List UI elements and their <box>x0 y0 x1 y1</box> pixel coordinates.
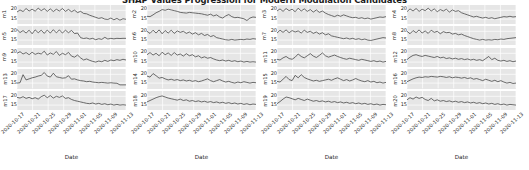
subplot-m1: m12015 <box>0 4 130 25</box>
y-tick-labels-m11: 2015 <box>268 47 277 68</box>
y-axis-label-text: m17 <box>2 95 8 107</box>
y-tick-labels-m17: 2015 <box>8 90 17 111</box>
y-axis-label-text: m1 <box>1 10 7 18</box>
y-tick-labels-m14: 2015 <box>138 69 147 90</box>
y-axis-label-text: m7 <box>261 32 267 40</box>
panel-column-4: m42015m82015m122015m162015m2020152020-10… <box>390 4 529 164</box>
series-line-m17 <box>17 95 126 105</box>
subplot-m19: m192015 <box>260 90 390 111</box>
y-tick-labels-m8: 2015 <box>398 26 407 47</box>
plot-area-m17 <box>17 91 126 110</box>
y-tick-labels-m5: 2015 <box>8 26 17 47</box>
subplot-m18: m182015 <box>130 90 260 111</box>
x-axis-ticks-col4: 2020-10-172020-10-212020-10-252020-10-29… <box>407 113 516 155</box>
series-line-m12 <box>407 54 516 61</box>
plot-area-m18 <box>147 91 256 110</box>
plot-area-m3 <box>277 5 386 24</box>
y-axis-label-text: m14 <box>132 73 138 85</box>
y-axis-label-text: m10 <box>132 52 138 64</box>
y-tick-labels-m20: 2015 <box>398 90 407 111</box>
y-tick-labels-m10: 2015 <box>138 47 147 68</box>
plot-area-m4 <box>407 5 516 24</box>
y-axis-label-text: m12 <box>392 52 398 64</box>
plot-area-m1 <box>17 5 126 24</box>
plot-area-m10 <box>147 48 256 67</box>
subplot-m20: m202015 <box>390 90 529 111</box>
x-axis-title-col4: Date <box>407 154 516 160</box>
series-line-m16 <box>407 77 516 84</box>
y-tick-labels-m13: 2015 <box>8 69 17 90</box>
y-axis-label-text: m4 <box>391 10 397 18</box>
plot-area-m15 <box>277 69 386 88</box>
x-axis-title-col1: Date <box>17 154 126 160</box>
y-axis-label-text: m16 <box>392 73 398 85</box>
series-line-m3 <box>277 8 386 19</box>
subplot-m4: m42015 <box>390 4 529 25</box>
y-tick-labels-m16: 2015 <box>398 69 407 90</box>
y-axis-label-text: m9 <box>1 53 7 61</box>
plot-area-m8 <box>407 26 516 45</box>
series-line-m18 <box>147 96 256 105</box>
plot-area-m2 <box>147 5 256 24</box>
x-axis-ticks-col3: 2020-10-172020-10-212020-10-252020-10-29… <box>277 113 386 155</box>
plot-area-m7 <box>277 26 386 45</box>
panel-column-1: m12015m52015m92015m132015m1720152020-10-… <box>0 4 130 164</box>
plot-area-m6 <box>147 26 256 45</box>
series-line-m14 <box>147 74 256 84</box>
x-axis-ticks-col2: 2020-10-172020-10-212020-10-252020-10-29… <box>147 113 256 155</box>
panel-column-2: m22015m62015m102015m142015m1820152020-10… <box>130 4 260 164</box>
subplot-m3: m32015 <box>260 4 390 25</box>
y-axis-label-text: m11 <box>262 52 268 64</box>
y-tick-labels-m1: 2015 <box>8 4 17 25</box>
subplot-m2: m22015 <box>130 4 260 25</box>
x-axis-title-col2: Date <box>147 154 256 160</box>
subplot-m11: m112015 <box>260 47 390 68</box>
subplot-m10: m102015 <box>130 47 260 68</box>
y-axis-label-text: m20 <box>392 95 398 107</box>
plot-area-m12 <box>407 48 516 67</box>
y-tick-labels-m7: 2015 <box>268 26 277 47</box>
plot-area-m13 <box>17 69 126 88</box>
x-axis-ticks-col1: 2020-10-172020-10-212020-10-252020-10-29… <box>17 113 126 155</box>
plot-area-m11 <box>277 48 386 67</box>
y-tick-labels-m6: 2015 <box>138 26 147 47</box>
y-tick-labels-m19: 2015 <box>268 90 277 111</box>
series-line-m19 <box>277 97 386 105</box>
subplot-m14: m142015 <box>130 69 260 90</box>
series-line-m4 <box>407 8 516 19</box>
plot-area-m16 <box>407 69 516 88</box>
plot-area-m20 <box>407 91 516 110</box>
plot-area-m9 <box>17 48 126 67</box>
subplot-m6: m62015 <box>130 26 260 47</box>
series-line-m10 <box>147 52 256 62</box>
subplot-m17: m172015 <box>0 90 130 111</box>
x-axis-title-col3: Date <box>277 154 386 160</box>
plot-area-m14 <box>147 69 256 88</box>
y-tick-labels-m18: 2015 <box>138 90 147 111</box>
shap-progression-figure: SHAP Values Progression for Modern Modul… <box>0 0 529 170</box>
subplot-m7: m72015 <box>260 26 390 47</box>
y-axis-label-text: m3 <box>261 10 267 18</box>
series-line-m20 <box>407 97 516 105</box>
subplot-m15: m152015 <box>260 69 390 90</box>
y-axis-label-text: m5 <box>1 32 7 40</box>
y-axis-label-text: m6 <box>131 32 137 40</box>
series-line-m15 <box>277 75 386 83</box>
y-tick-labels-m2: 2015 <box>138 4 147 25</box>
y-axis-label-text: m15 <box>262 73 268 85</box>
y-axis-label-text: m8 <box>391 32 397 40</box>
y-tick-labels-m15: 2015 <box>268 69 277 90</box>
y-tick-labels-m3: 2015 <box>268 4 277 25</box>
subplot-m13: m132015 <box>0 69 130 90</box>
panel-column-3: m32015m72015m112015m152015m1920152020-10… <box>260 4 390 164</box>
subplot-m5: m52015 <box>0 26 130 47</box>
y-axis-label-text: m13 <box>2 73 8 85</box>
subplot-m8: m82015 <box>390 26 529 47</box>
plot-area-m5 <box>17 26 126 45</box>
y-axis-label-text: m2 <box>131 10 137 18</box>
series-line-m9 <box>17 51 126 62</box>
y-tick-labels-m12: 2015 <box>398 47 407 68</box>
y-axis-label-text: m19 <box>262 95 268 107</box>
subplot-m12: m122015 <box>390 47 529 68</box>
y-axis-label-text: m18 <box>132 95 138 107</box>
